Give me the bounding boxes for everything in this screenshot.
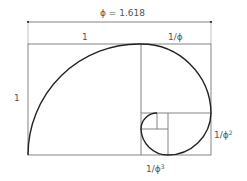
label-bottom-inner-base: 1/ϕ — [146, 164, 161, 174]
label-total-width: ϕ = 1.618 — [100, 9, 145, 18]
golden-rectangle — [28, 44, 211, 155]
label-right-width: 1/ϕ — [168, 33, 183, 42]
label-right-lower-base: 1/ϕ — [214, 130, 229, 140]
label-bottom-inner-exp: 3 — [161, 163, 165, 170]
label-right-lower: 1/ϕ2 — [214, 130, 233, 140]
label-height: 1 — [14, 94, 20, 103]
label-right-lower-exp: 2 — [229, 129, 233, 136]
golden-spiral — [28, 44, 211, 155]
label-bottom-inner: 1/ϕ3 — [146, 164, 165, 174]
golden-spiral-diagram — [0, 0, 247, 181]
label-left-width: 1 — [82, 33, 88, 42]
